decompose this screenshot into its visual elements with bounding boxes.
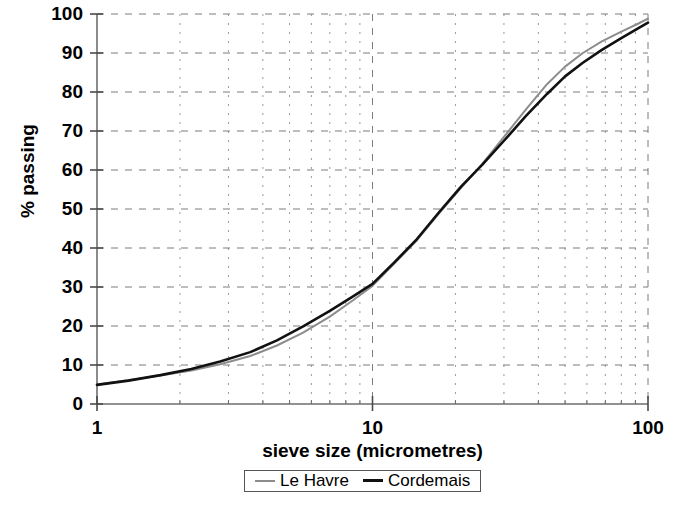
y-tick-label: 50 (31, 199, 83, 218)
y-tick-label: 20 (31, 316, 83, 335)
chart-legend: Le HavreCordemais (244, 470, 481, 492)
x-tick-label: 100 (618, 418, 678, 437)
legend-item: Le Havre (255, 472, 349, 489)
grading-curve-chart: % passing 0102030405060708090100 110100 … (0, 0, 680, 513)
y-tick-label: 100 (31, 4, 83, 23)
legend-line-swatch (255, 480, 275, 482)
y-tick-label: 90 (31, 43, 83, 62)
legend-line-swatch (363, 479, 383, 482)
y-tick-label: 60 (31, 160, 83, 179)
x-axis-title: sieve size (micrometres) (97, 440, 648, 462)
legend-label: Cordemais (388, 472, 470, 489)
y-tick-label: 80 (31, 82, 83, 101)
y-tick-label: 40 (31, 238, 83, 257)
legend-label: Le Havre (280, 472, 349, 489)
x-tick-label: 10 (343, 418, 403, 437)
y-tick-label: 0 (31, 394, 83, 413)
y-tick-label: 30 (31, 277, 83, 296)
axis-tick-marks (90, 14, 648, 411)
legend-item: Cordemais (363, 472, 470, 489)
y-tick-label: 10 (31, 355, 83, 374)
x-tick-label: 1 (67, 418, 127, 437)
y-tick-label: 70 (31, 121, 83, 140)
